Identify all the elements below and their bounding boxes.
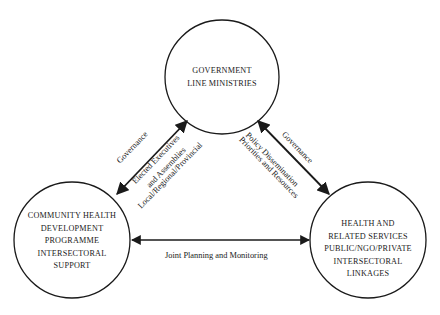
node-government-line: GOVERNMENT xyxy=(172,65,272,78)
node-community-line: PROGRAMME xyxy=(17,235,127,248)
node-community-line: COMMUNITY HEALTH xyxy=(17,210,127,223)
node-health-line: INTERSECTORAL xyxy=(313,256,423,269)
node-community-line: INTERSECTORAL xyxy=(17,248,127,261)
node-community-label: COMMUNITY HEALTH DEVELOPMENT PROGRAMME I… xyxy=(17,210,127,273)
node-health-line: LINKAGES xyxy=(313,268,423,281)
node-health-label: HEALTH AND RELATED SERVICES PUBLIC/NGO/P… xyxy=(313,218,423,281)
node-health-line: RELATED SERVICES xyxy=(313,231,423,244)
node-community-line: SUPPORT xyxy=(17,260,127,273)
node-government-line: LINE MINISTRIES xyxy=(172,78,272,91)
node-health-line: HEALTH AND xyxy=(313,218,423,231)
node-community-line: DEVELOPMENT xyxy=(17,223,127,236)
edge-community-health-label: Joint Planning and Monitoring xyxy=(165,251,268,260)
node-health-line: PUBLIC/NGO/PRIVATE xyxy=(313,243,423,256)
node-government-label: GOVERNMENT LINE MINISTRIES xyxy=(172,65,272,90)
